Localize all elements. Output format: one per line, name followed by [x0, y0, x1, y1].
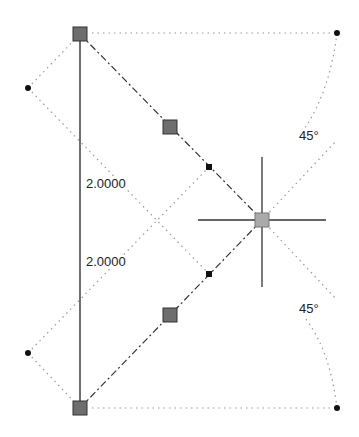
cursor-pickbox-icon [255, 213, 269, 227]
angle-label-top: 45° [299, 129, 319, 143]
drawing-canvas[interactable]: 2.0000 2.0000 45° 45° [0, 0, 359, 437]
dimension-label-bottom: 2.0000 [86, 255, 126, 269]
dimension-label-top: 2.0000 [86, 177, 126, 191]
cad-drawing [0, 0, 359, 437]
angle-label-bottom: 45° [299, 302, 319, 316]
dashdot-lines [80, 34, 262, 408]
grips[interactable] [73, 27, 177, 415]
